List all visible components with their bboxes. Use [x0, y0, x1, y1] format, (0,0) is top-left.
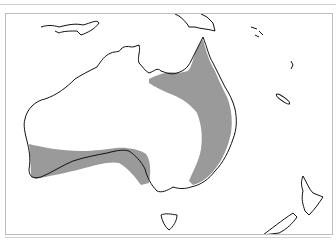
vanuatu-islands	[291, 61, 293, 69]
top-strip	[0, 0, 336, 5]
distribution-range-southwest	[29, 144, 150, 185]
timor-islands	[41, 21, 99, 35]
bottom-strip	[5, 237, 331, 241]
new-guinea-coastline	[175, 14, 215, 31]
distribution-range-east	[149, 39, 232, 185]
new-caledonia	[275, 93, 290, 105]
new-zealand-north-island	[302, 176, 324, 215]
new-zealand-south-island	[263, 213, 297, 234]
map-frame[interactable]	[5, 13, 333, 235]
tasmania-coastline	[161, 214, 177, 230]
map-canvas	[6, 14, 332, 234]
solomon-islands	[251, 27, 263, 37]
